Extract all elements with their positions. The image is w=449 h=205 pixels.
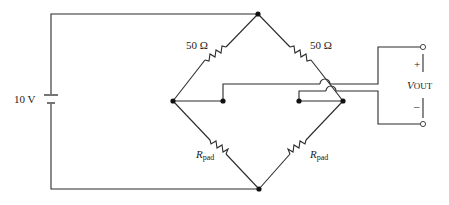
node-inner-left [220, 98, 225, 103]
battery-icon [44, 95, 58, 103]
resistor-top-left-label: 50 Ω [186, 39, 208, 51]
outer-loop-wires [51, 14, 259, 189]
resistor-bottom-left [173, 101, 259, 189]
node-bottom [256, 186, 261, 191]
node-top [255, 11, 260, 16]
inner-wires [173, 47, 423, 124]
vout-plus-sign: + [414, 58, 420, 70]
resistor-bottom-right-label: Rpad [309, 148, 328, 162]
node-left [170, 98, 175, 103]
node-right [340, 98, 345, 103]
resistor-top-left [173, 14, 258, 101]
resistor-top-right [258, 14, 343, 101]
resistor-bottom-right [259, 101, 343, 189]
resistor-bottom-left-label: Rpad [195, 148, 214, 162]
node-inner-right [296, 98, 301, 103]
vout-minus-terminal [420, 121, 425, 126]
vout-plus-terminal [420, 44, 425, 49]
vout-label: VOUT [407, 79, 433, 91]
vout-minus-sign: – [413, 100, 420, 112]
source-voltage-label: 10 V [14, 93, 36, 105]
resistor-top-right-label: 50 Ω [310, 39, 332, 51]
circuit-diagram: 10 V 50 Ω 50 Ω Rpad Rpad [0, 0, 449, 205]
